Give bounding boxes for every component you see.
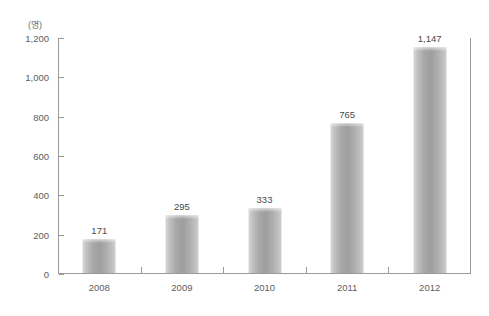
- y-axis-tick-label: 0: [44, 269, 49, 280]
- bar-top-highlight: [165, 215, 198, 219]
- bar: [331, 123, 364, 273]
- y-axis-tick-mark: [59, 38, 64, 39]
- bar-top-highlight: [248, 208, 281, 212]
- bar-top-highlight: [413, 47, 446, 51]
- x-axis-tick-mark: [388, 267, 389, 273]
- y-axis-tick-mark: [59, 235, 64, 236]
- x-axis-category-label: 2008: [89, 282, 110, 293]
- bar: [83, 239, 116, 273]
- y-axis-tick-mark: [59, 156, 64, 157]
- bar-value-label: 1,147: [418, 33, 442, 44]
- x-axis-tick-mark: [306, 267, 307, 273]
- bar-top-highlight: [83, 239, 116, 243]
- y-axis-tick-mark: [59, 77, 64, 78]
- bar-value-label: 171: [91, 225, 107, 236]
- y-axis-tick-label: 600: [33, 151, 49, 162]
- x-axis-tick-mark: [223, 267, 224, 273]
- x-axis-category-label: 2011: [337, 282, 357, 293]
- bar-chart: (명) 02004006008001,0001,200 171295333765…: [0, 0, 489, 316]
- bar: [165, 215, 198, 273]
- y-axis-tick-mark: [59, 195, 64, 196]
- bar-value-label: 765: [339, 109, 355, 120]
- plot-area: 02004006008001,0001,200: [58, 38, 471, 274]
- y-axis-unit-label: (명): [28, 18, 42, 31]
- y-axis-tick-label: 1,200: [25, 33, 49, 44]
- bar: [413, 47, 446, 273]
- y-axis-tick-mark: [59, 274, 64, 275]
- bar: [248, 208, 281, 273]
- x-axis-category-label: 2009: [171, 282, 192, 293]
- bar-value-label: 295: [174, 201, 190, 212]
- y-axis-tick-label: 800: [33, 111, 49, 122]
- x-axis-line: [58, 273, 471, 274]
- bar-value-label: 333: [257, 194, 273, 205]
- y-axis-tick-label: 400: [33, 190, 49, 201]
- plot-right-border: [470, 38, 471, 274]
- y-axis-tick-label: 200: [33, 229, 49, 240]
- bar-top-highlight: [331, 123, 364, 127]
- y-axis-tick-mark: [59, 117, 64, 118]
- y-axis-tick-label: 1,000: [25, 72, 49, 83]
- x-axis-tick-mark: [141, 267, 142, 273]
- x-axis-category-label: 2010: [254, 282, 275, 293]
- x-axis-category-label: 2012: [419, 282, 440, 293]
